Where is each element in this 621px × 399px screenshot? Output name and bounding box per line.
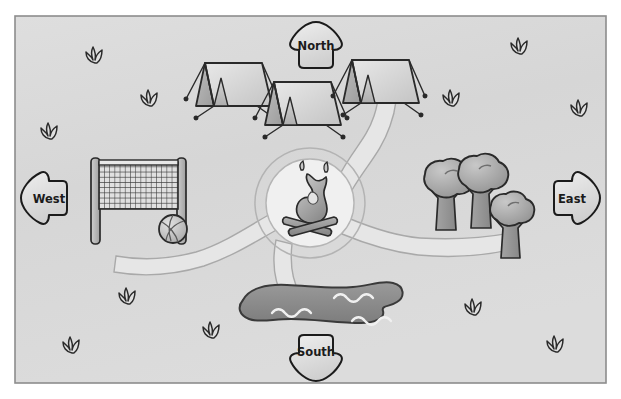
net-top-band — [99, 160, 178, 165]
net-mesh — [99, 162, 178, 209]
south-label: South — [297, 345, 335, 359]
campground-map: North South East West — [0, 0, 621, 399]
spark-right — [324, 162, 328, 172]
map-canvas: North South East West — [0, 0, 621, 399]
volleyball-ball — [159, 215, 187, 243]
west-label: West — [33, 192, 66, 206]
flame-inner — [308, 192, 318, 204]
lake-body — [240, 282, 403, 323]
east-label: East — [558, 192, 586, 206]
north-label: North — [298, 39, 335, 53]
spark-left — [300, 161, 304, 170]
lake[interactable] — [240, 282, 403, 325]
